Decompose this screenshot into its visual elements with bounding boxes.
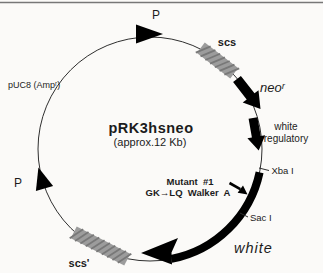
promoter-top-triangle-icon — [136, 25, 163, 44]
plasmid-map-figure: P scs neoʳ white regulatory Xba I — [0, 0, 323, 273]
plasmid-subtitle: (approx.12 Kb) — [114, 136, 187, 148]
white-gene-label: white — [234, 240, 273, 256]
promoter-top-label: P — [152, 8, 160, 22]
white-regulatory-arrow — [247, 117, 265, 150]
scs-label: scs — [218, 36, 236, 48]
white-regulatory-label-line1: white — [273, 121, 298, 132]
plasmid-map-canvas: P scs neoʳ white regulatory Xba I — [0, 0, 323, 273]
mutation-note-line2: GK→LQ Walker A — [146, 187, 231, 198]
neo-gene-arrow — [233, 76, 260, 109]
sac-site-label: Sac I — [250, 212, 272, 223]
plasmid-title: pRK3hsneo — [108, 120, 193, 136]
scs-prime-label: scs' — [69, 257, 90, 269]
mutation-note-line1: Mutant #1 — [167, 176, 215, 187]
promoter-left-triangle-icon — [36, 168, 53, 192]
mutation-pointer-shaft — [230, 183, 241, 189]
backbone-label: pUC8 (Ampʳ) — [8, 80, 60, 90]
xba-site-label: Xba I — [272, 165, 294, 176]
white-regulatory-label-line2: regulatory — [264, 133, 308, 144]
promoter-left-label: P — [14, 176, 22, 190]
neo-gene-label: neoʳ — [260, 80, 286, 95]
mutation-pointer-arrowhead-icon — [238, 186, 248, 195]
